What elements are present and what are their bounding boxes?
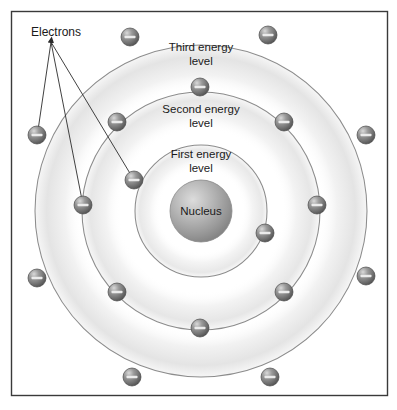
bohr-model-svg: Nucleus Third energy level Second energy… bbox=[0, 0, 397, 410]
atom-diagram-figure: Nucleus Third energy level Second energy… bbox=[0, 0, 397, 410]
electron bbox=[28, 269, 46, 287]
electron-minus-icon bbox=[78, 204, 89, 207]
electron-minus-icon bbox=[32, 277, 43, 280]
electron bbox=[357, 267, 375, 285]
first-level-label-line1: First energy bbox=[171, 148, 232, 160]
electron bbox=[191, 319, 209, 337]
electron-minus-icon bbox=[361, 134, 372, 137]
electrons-callout-label: Electrons bbox=[31, 25, 81, 39]
second-level-label-line1: Second energy bbox=[162, 103, 240, 115]
first-level-label-line2: level bbox=[189, 162, 213, 174]
electron bbox=[256, 224, 274, 242]
electron-minus-icon bbox=[127, 376, 138, 379]
electron bbox=[261, 368, 279, 386]
electron bbox=[357, 126, 375, 144]
electron-minus-icon bbox=[361, 275, 372, 278]
electron bbox=[108, 113, 126, 131]
electron-minus-icon bbox=[265, 376, 276, 379]
nucleus-label: Nucleus bbox=[180, 205, 222, 217]
electron-minus-icon bbox=[195, 327, 206, 330]
electron-minus-icon bbox=[129, 179, 140, 182]
electron bbox=[123, 368, 141, 386]
electron-minus-icon bbox=[195, 86, 206, 89]
electron-minus-icon bbox=[312, 204, 323, 207]
electron-minus-icon bbox=[112, 291, 123, 294]
electron bbox=[259, 26, 277, 44]
electron bbox=[308, 196, 326, 214]
electron bbox=[125, 171, 143, 189]
electron bbox=[108, 283, 126, 301]
electron bbox=[74, 196, 92, 214]
electron-minus-icon bbox=[112, 121, 123, 124]
electron-minus-icon bbox=[125, 36, 136, 39]
electron-minus-icon bbox=[260, 232, 271, 235]
electron bbox=[275, 113, 293, 131]
third-level-label-line2: level bbox=[189, 55, 213, 67]
electron-minus-icon bbox=[279, 291, 290, 294]
electron bbox=[275, 283, 293, 301]
electron bbox=[28, 126, 46, 144]
nucleus: Nucleus bbox=[170, 180, 232, 242]
electron-minus-icon bbox=[32, 134, 43, 137]
electron bbox=[191, 78, 209, 96]
third-level-label-line1: Third energy bbox=[169, 41, 234, 53]
electron-minus-icon bbox=[263, 34, 274, 37]
second-level-label-line2: level bbox=[189, 117, 213, 129]
electron-minus-icon bbox=[279, 121, 290, 124]
electron bbox=[121, 28, 139, 46]
